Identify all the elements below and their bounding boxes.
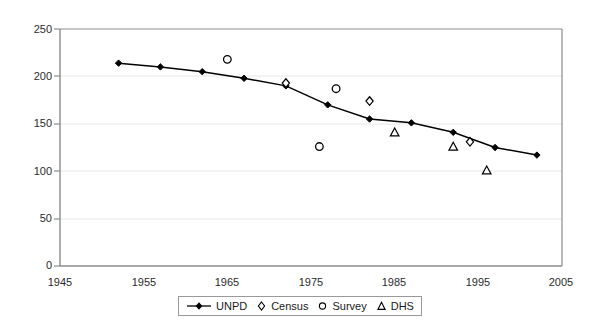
series-census: [282, 79, 473, 146]
data-point-unpd: [534, 152, 540, 158]
data-point-survey: [332, 85, 340, 93]
data-point-unpd: [199, 68, 205, 74]
diamond-open-marker-icon: [256, 300, 267, 312]
series-dhs: [390, 128, 491, 174]
data-point-unpd: [408, 120, 414, 126]
legend-label-survey: Survey: [332, 301, 366, 312]
legend-label-dhs: DHS: [391, 301, 414, 312]
data-point-unpd: [157, 64, 163, 70]
legend-label-census: Census: [271, 301, 308, 312]
data-point-unpd: [325, 102, 331, 108]
y-axis-ticks: [54, 29, 60, 266]
plot-area: [0, 0, 601, 328]
data-point-unpd: [450, 129, 456, 135]
legend-item-dhs: DHS: [376, 300, 414, 312]
data-point-unpd: [115, 60, 121, 66]
data-point-census: [366, 97, 373, 106]
legend-item-survey: Survey: [317, 300, 366, 312]
data-point-dhs: [482, 166, 491, 174]
circle-open-marker-icon: [317, 300, 328, 312]
data-point-unpd: [366, 116, 372, 122]
data-point-dhs: [390, 128, 399, 136]
line-diamond-marker-icon: [186, 300, 212, 312]
series-unpd: [115, 60, 540, 158]
series-layer: [115, 56, 540, 174]
triangle-open-marker-icon: [376, 300, 387, 312]
chart-container: 250 200 150 100 50 0 1945 1955 1965 1975…: [0, 0, 601, 328]
chart-legend: UNPD Census Survey DHS: [178, 296, 422, 316]
legend-item-census: Census: [256, 300, 308, 312]
data-point-dhs: [449, 142, 458, 150]
data-point-survey: [316, 143, 324, 151]
data-point-unpd: [492, 144, 498, 150]
legend-item-unpd: UNPD: [186, 300, 247, 312]
data-point-survey: [224, 56, 232, 64]
legend-label-unpd: UNPD: [216, 301, 247, 312]
